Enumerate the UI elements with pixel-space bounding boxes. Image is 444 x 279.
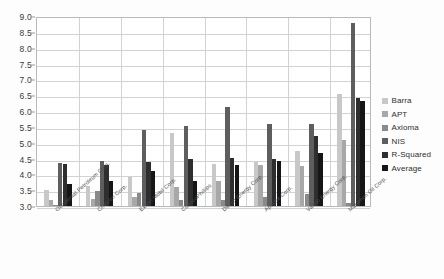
y-axis-tick-mark xyxy=(31,143,35,144)
y-axis-tick-mark xyxy=(31,112,35,113)
y-axis-tick-mark xyxy=(31,159,35,160)
legend-swatch-icon xyxy=(382,98,388,104)
legend-label: Barra xyxy=(392,96,412,105)
legend-item[interactable]: NIS xyxy=(382,137,444,146)
y-axis-tick-mark xyxy=(31,127,35,128)
legend-swatch-icon xyxy=(382,165,388,171)
bar-chart: 9.08.58.07.57.06.56.05.55.04.54.03.53.0 … xyxy=(0,0,444,279)
y-axis-tick-mark xyxy=(31,191,35,192)
legend-label: Average xyxy=(392,164,422,173)
y-axis-tick-mark xyxy=(31,80,35,81)
legend-swatch-icon xyxy=(382,111,388,117)
y-axis-tick-mark xyxy=(31,32,35,33)
x-axis-labels: Occidental Petroleum Corp.Chevron Corp.E… xyxy=(36,208,371,279)
legend-label: APT xyxy=(392,110,408,119)
y-axis-tick-mark xyxy=(31,48,35,49)
y-axis-tick-mark xyxy=(31,96,35,97)
bar xyxy=(360,101,364,206)
y-axis: 9.08.58.07.57.06.56.05.55.04.54.03.53.0 xyxy=(0,0,36,208)
y-axis-tick-mark xyxy=(31,17,35,18)
legend-item[interactable]: Barra xyxy=(382,96,444,105)
legend-label: Axioma xyxy=(392,123,419,132)
legend-item[interactable]: APT xyxy=(382,110,444,119)
legend-item[interactable]: Axioma xyxy=(382,123,444,132)
legend-swatch-icon xyxy=(382,138,388,144)
y-axis-tick-mark xyxy=(31,207,35,208)
y-axis-tick-mark xyxy=(31,64,35,65)
legend-swatch-icon xyxy=(382,125,388,131)
chart-legend: BarraAPTAxiomaNISR-SquaredAverage xyxy=(382,96,444,173)
legend-item[interactable]: R-Squared xyxy=(382,150,444,159)
y-axis-tick-mark xyxy=(31,175,35,176)
legend-swatch-icon xyxy=(382,152,388,158)
legend-label: NIS xyxy=(392,137,406,146)
legend-label: R-Squared xyxy=(392,150,432,159)
legend-item[interactable]: Average xyxy=(382,164,444,173)
